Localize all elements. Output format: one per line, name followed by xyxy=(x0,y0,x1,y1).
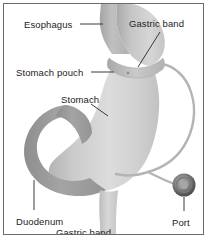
band-marker-dot xyxy=(127,72,129,74)
label-gastric-band-top: Gastric band xyxy=(129,18,184,29)
figure-frame: Esophagus Gastric band Stomach pouch Sto… xyxy=(3,3,204,235)
duodenum-upper-curve xyxy=(56,105,92,144)
label-stomach: Stomach xyxy=(61,94,99,105)
gastric-band-diagram xyxy=(4,4,203,234)
label-duodenum: Duodenum xyxy=(16,216,63,227)
connecting-tube-port-link xyxy=(148,172,172,183)
figure-root: Esophagus Gastric band Stomach pouch Sto… xyxy=(0,0,209,240)
label-port: Port xyxy=(172,217,190,228)
label-gastric-band-bottom: Gastric band xyxy=(56,227,111,235)
label-stomach-pouch: Stomach pouch xyxy=(16,67,83,78)
label-esophagus: Esophagus xyxy=(24,19,72,30)
access-port-center xyxy=(180,181,188,189)
